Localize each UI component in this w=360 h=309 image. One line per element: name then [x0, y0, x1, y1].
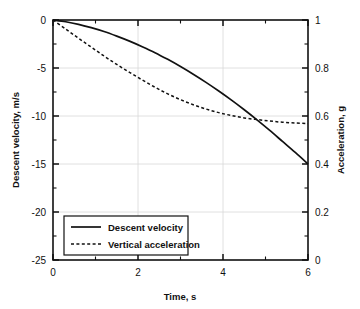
y-tick-label: -25 — [32, 255, 47, 266]
x-tick-label: 4 — [220, 267, 226, 278]
y-tick-label: -20 — [32, 207, 47, 218]
y2-tick-label: 0.4 — [315, 159, 329, 170]
legend-label-vertical-acceleration: Vertical acceleration — [108, 239, 200, 250]
descent-velocity-acceleration-chart: 02460-5-10-15-20-2510.80.60.40.20 Time, … — [0, 0, 360, 309]
legend-label-descent-velocity: Descent velocity — [108, 222, 184, 233]
x-tick-label: 2 — [135, 267, 141, 278]
y2-tick-label: 0.6 — [315, 111, 329, 122]
x-axis-title: Time, s — [164, 291, 197, 302]
y2-axis-title: Acceleration, g — [335, 106, 346, 174]
legend: Descent velocity Vertical acceleration — [64, 216, 200, 255]
y-tick-label: -15 — [32, 159, 47, 170]
x-tick-label: 6 — [305, 267, 311, 278]
x-tick-label: 0 — [50, 267, 56, 278]
y-tick-label: -10 — [32, 111, 47, 122]
y2-tick-label: 1 — [315, 15, 321, 26]
y2-tick-label: 0.2 — [315, 207, 329, 218]
y2-tick-label: 0 — [315, 255, 321, 266]
y2-tick-label: 0.8 — [315, 63, 329, 74]
y-axis-title: Descent velocity, m/s — [10, 92, 21, 188]
y-tick-label: 0 — [40, 15, 46, 26]
chart-background — [0, 0, 360, 309]
y-tick-label: -5 — [37, 63, 46, 74]
